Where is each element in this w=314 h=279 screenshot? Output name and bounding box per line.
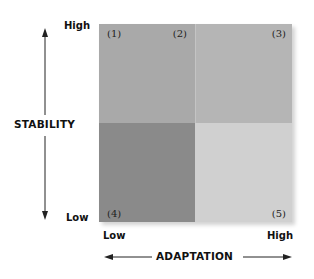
quadrant-marker-4: (4): [107, 208, 121, 219]
quadrant-marker-5: (5): [272, 208, 286, 219]
quadrant-top-right: (3): [195, 24, 292, 123]
quadrant-marker-3: (3): [272, 28, 286, 39]
x-axis-low-label: Low: [103, 230, 125, 241]
matrix-grid: (1) (2) (3) (4) (5): [99, 24, 292, 222]
quadrant-top-left: (1) (2): [99, 24, 195, 123]
arrow-down-icon: [42, 211, 48, 220]
x-axis-high-label: High: [267, 230, 293, 241]
arrow-up-icon: [42, 28, 48, 37]
arrow-right-icon: [283, 254, 292, 260]
quadrant-bottom-left: (4): [99, 123, 195, 222]
y-axis-title: STABILITY: [14, 118, 75, 130]
quadrant-marker-2: (2): [173, 28, 187, 39]
y-axis-low-label: Low: [66, 212, 88, 223]
quadrant-bottom-right: (5): [195, 123, 292, 222]
x-axis-title: ADAPTATION: [156, 250, 233, 262]
quadrant-marker-1: (1): [107, 28, 121, 39]
arrow-left-icon: [104, 254, 113, 260]
y-axis-high-label: High: [64, 20, 90, 31]
